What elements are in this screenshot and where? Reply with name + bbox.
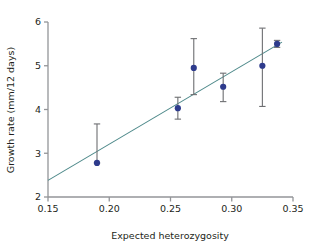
error-bar: [94, 124, 100, 163]
x-tick-label: 0.30: [221, 203, 242, 214]
data-point: [220, 84, 226, 90]
error-bars: [94, 28, 280, 163]
data-point: [191, 65, 197, 71]
chart-canvas: 23456 0.150.200.250.300.35 Expected hete…: [0, 0, 322, 247]
x-tick-label: 0.25: [160, 203, 181, 214]
x-axis: 0.150.200.250.300.35: [37, 197, 303, 214]
y-axis-tick-labels: 23456: [35, 16, 41, 202]
x-tick-label: 0.15: [37, 203, 58, 214]
regression-line: [48, 42, 282, 180]
data-point: [175, 105, 181, 111]
y-tick-label: 3: [35, 148, 41, 159]
y-tick-label: 6: [35, 16, 41, 27]
y-tick-label: 2: [35, 191, 41, 202]
y-axis: 23456: [35, 16, 48, 202]
x-axis-tick-labels: 0.150.200.250.300.35: [37, 203, 303, 214]
trend-line: [48, 42, 282, 180]
y-axis-title: Growth rate (mm/12 days): [5, 47, 16, 173]
x-tick-label: 0.35: [282, 203, 303, 214]
data-point: [94, 160, 100, 166]
data-point: [259, 63, 265, 69]
y-tick-label: 5: [35, 60, 41, 71]
data-point: [274, 41, 280, 47]
y-tick-label: 4: [35, 104, 41, 115]
scatter-chart: 23456 0.150.200.250.300.35 Expected hete…: [0, 0, 322, 247]
x-axis-ticks: [48, 197, 293, 202]
x-tick-label: 0.20: [99, 203, 120, 214]
x-axis-title: Expected heterozygosity: [111, 230, 229, 241]
